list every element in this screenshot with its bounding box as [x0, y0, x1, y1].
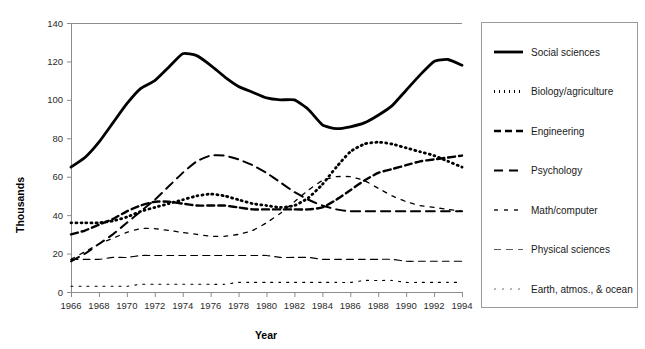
y-tick-label: 0 — [58, 287, 63, 298]
x-tick-label: 1980 — [256, 300, 277, 311]
series-line-social-sciences — [71, 53, 462, 167]
legend-label-physical-sciences: Physical sciences — [531, 244, 610, 255]
x-tick-label: 1988 — [368, 300, 389, 311]
series-line-physical-sciences — [71, 255, 462, 261]
y-tick-label: 140 — [47, 18, 63, 29]
y-tick-label: 100 — [47, 94, 63, 105]
series-line-earth-atmos-ocean — [71, 280, 462, 286]
y-tick-label: 120 — [47, 56, 63, 67]
x-tick-label: 1984 — [312, 300, 333, 311]
x-tick-label: 1986 — [340, 300, 361, 311]
x-tick-label: 1968 — [88, 300, 109, 311]
legend-label-engineering: Engineering — [531, 126, 584, 137]
chart-figure: 020406080100120140 196619681970197219741… — [0, 0, 645, 349]
x-tick-label: 1990 — [396, 300, 417, 311]
y-axis-title: Thousands — [14, 177, 26, 233]
x-tick-label: 1992 — [424, 300, 445, 311]
x-tick-label: 1970 — [116, 300, 137, 311]
legend-label-math-computer: Math/computer — [531, 205, 598, 216]
x-tick-label: 1978 — [228, 300, 249, 311]
x-tick-label: 1976 — [200, 300, 221, 311]
legend-label-biology-agriculture: Biology/agriculture — [531, 86, 614, 97]
x-tick-label: 1982 — [284, 300, 305, 311]
line-chart: 020406080100120140 196619681970197219741… — [0, 0, 645, 349]
x-tick-label: 1974 — [172, 300, 193, 311]
y-axis-ticks: 020406080100120140 — [47, 18, 71, 298]
x-tick-label: 1966 — [60, 300, 81, 311]
x-tick-label: 1994 — [451, 300, 472, 311]
legend: Social sciencesBiology/agricultureEngine… — [482, 23, 638, 308]
legend-label-earth-atmos-ocean: Earth, atmos., & ocean — [531, 284, 633, 295]
series-line-engineering — [71, 156, 462, 235]
legend-label-psychology: Psychology — [531, 165, 582, 176]
y-tick-label: 40 — [52, 210, 63, 221]
y-tick-label: 80 — [52, 133, 63, 144]
x-tick-label: 1972 — [144, 300, 165, 311]
axes-group — [71, 23, 462, 293]
y-tick-label: 20 — [52, 248, 63, 259]
series-group — [71, 53, 462, 286]
y-tick-label: 60 — [52, 171, 63, 182]
x-axis-title: Year — [255, 329, 277, 341]
x-axis-ticks: 1966196819701972197419761978198019821984… — [60, 292, 472, 311]
legend-label-social-sciences: Social sciences — [531, 47, 600, 58]
series-line-math-computer — [71, 176, 462, 259]
